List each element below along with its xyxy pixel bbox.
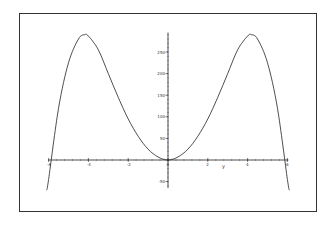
x-axis-label: y [222,163,225,170]
x-tick-label: -4 [87,162,91,167]
x-tick-label: 2 [206,162,209,167]
plot-area: -6-4-20246 -5050100150200250 y [0,0,335,227]
y-tick-label: 100 [157,114,165,119]
y-tick-label: 200 [157,71,165,76]
x-tick-label: -6 [47,162,51,167]
y-tick-label: -50 [158,179,165,184]
x-axis-ticks: -6-4-20246 [47,158,289,167]
x-tick-label: 4 [246,162,249,167]
x-tick-label: 6 [286,162,289,167]
y-tick-label: 150 [157,93,165,98]
x-tick-label: 0 [167,162,170,167]
y-tick-label: 50 [160,136,166,141]
x-tick-label: -2 [127,162,131,167]
y-tick-label: 250 [157,50,165,55]
